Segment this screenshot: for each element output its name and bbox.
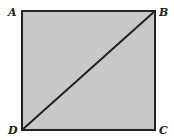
vertex-label-d: D (7, 124, 18, 137)
vertex-label-a: A (7, 6, 17, 19)
square-diagram: A B C D (0, 0, 174, 140)
vertex-label-b: B (158, 6, 168, 19)
vertex-label-c: C (159, 124, 168, 137)
